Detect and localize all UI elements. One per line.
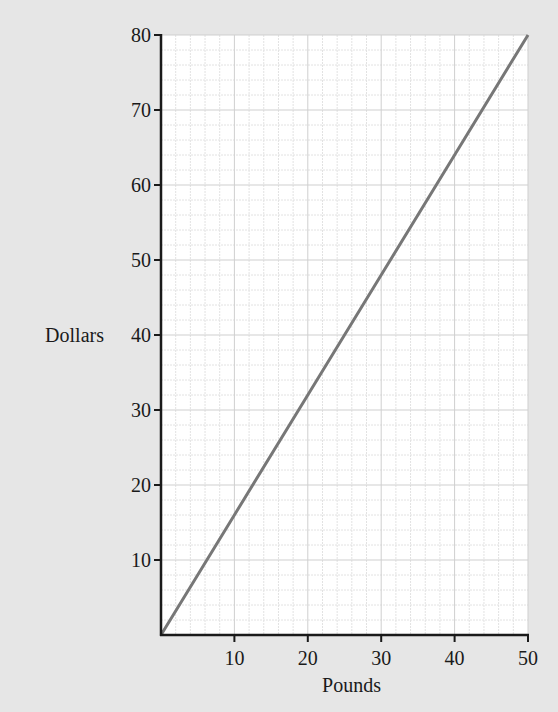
- y-axis-ticks: 1020304050607080: [131, 24, 161, 571]
- x-axis-title: Pounds: [322, 674, 381, 696]
- y-tick-label: 20: [131, 474, 151, 496]
- y-tick-label: 50: [131, 249, 151, 271]
- y-tick-label: 80: [131, 24, 151, 46]
- y-tick-label: 40: [131, 324, 151, 346]
- x-tick-label: 40: [445, 647, 465, 669]
- y-tick-label: 70: [131, 99, 151, 121]
- x-axis-ticks: 1020304050: [224, 635, 538, 669]
- x-tick-label: 50: [518, 647, 538, 669]
- y-tick-label: 30: [131, 399, 151, 421]
- x-tick-label: 30: [371, 647, 391, 669]
- x-tick-label: 20: [298, 647, 318, 669]
- y-tick-label: 10: [131, 549, 151, 571]
- x-tick-label: 10: [224, 647, 244, 669]
- conversion-chart: 1020304050 1020304050607080 Pounds Dolla…: [0, 0, 558, 712]
- y-axis-title: Dollars: [45, 324, 104, 346]
- y-tick-label: 60: [131, 174, 151, 196]
